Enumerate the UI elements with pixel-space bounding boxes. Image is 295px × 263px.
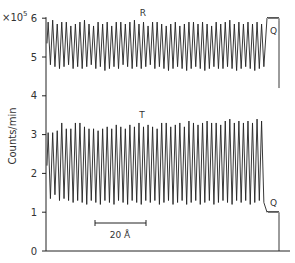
scale-bar-label: 20 Å (110, 229, 131, 240)
y-tick-label: 6 (31, 13, 37, 24)
y-tick-label: 0 (31, 246, 37, 257)
y-tick-label: 4 (31, 90, 37, 101)
series-r-trace (47, 17, 279, 88)
y-axis: 0123456 (31, 13, 46, 257)
y-axis-label: Counts/min (7, 107, 18, 164)
series-t-label: T (138, 110, 145, 120)
series-t-trace (47, 119, 279, 251)
y-tick-label: 2 (31, 168, 37, 179)
trace-path (47, 17, 279, 88)
y-tick-label: 5 (31, 52, 37, 63)
y-tick-label: 1 (31, 207, 37, 218)
chart-canvas: 0123456 ×105 Counts/min R T Q Q 20 Å (0, 0, 295, 263)
q-label-t: Q (270, 198, 277, 208)
y-tick-label: 3 (31, 129, 37, 140)
y-multiplier-label: ×105 (2, 10, 28, 23)
trace-path (47, 119, 279, 251)
series-r-label: R (140, 8, 146, 18)
q-label-r: Q (270, 26, 277, 36)
scale-bar (95, 220, 146, 226)
